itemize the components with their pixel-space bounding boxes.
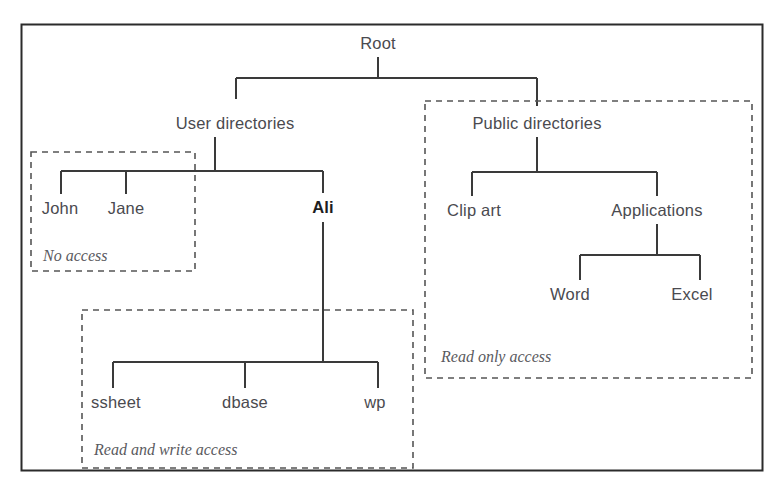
node-john: John <box>42 200 79 217</box>
zone-caption-no-access: No access <box>43 248 107 264</box>
zone-caption-read-and-write-access: Read and write access <box>94 442 238 458</box>
node-public-directories: Public directories <box>472 115 601 132</box>
diagram-canvas: Root User directories John Jane Ali sshe… <box>0 0 775 490</box>
node-clip-art: Clip art <box>447 202 501 219</box>
node-excel: Excel <box>671 286 712 303</box>
node-dbase: dbase <box>222 394 268 411</box>
node-ali: Ali <box>312 199 334 216</box>
tree-connectors <box>61 57 700 388</box>
node-applications: Applications <box>611 202 702 219</box>
zone-box-read-only-access <box>425 101 752 378</box>
node-root: Root <box>360 35 396 52</box>
diagram-lines <box>0 0 775 490</box>
node-wp: wp <box>364 394 386 411</box>
node-word: Word <box>550 286 590 303</box>
node-jane: Jane <box>108 200 145 217</box>
node-ssheet: ssheet <box>91 394 141 411</box>
zone-caption-read-only-access: Read only access <box>441 349 551 365</box>
access-zone-boxes <box>31 101 752 468</box>
node-user-directories: User directories <box>176 115 295 132</box>
